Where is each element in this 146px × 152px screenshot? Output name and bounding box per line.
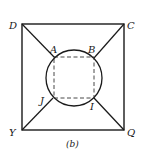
segment-C-B: [94, 24, 124, 58]
label-C: C: [127, 20, 135, 31]
label-D: D: [8, 20, 17, 31]
segment-Y-J: [22, 98, 53, 130]
inner-dashed-square: [54, 57, 94, 98]
segment-Q-I: [94, 98, 124, 130]
label-A: A: [49, 44, 57, 55]
label-B: B: [87, 44, 95, 55]
figure-caption: (b): [66, 139, 79, 149]
diagram-canvas: D C Y Q A B J I (b): [0, 0, 146, 152]
label-Q: Q: [127, 127, 135, 138]
label-Y: Y: [9, 127, 17, 138]
label-J: J: [38, 95, 45, 106]
label-I: I: [89, 101, 95, 112]
